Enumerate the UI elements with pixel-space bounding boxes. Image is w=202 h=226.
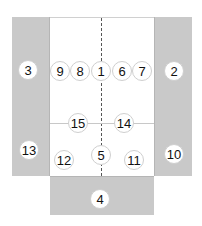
marker-2: 2 — [164, 61, 184, 81]
marker-12: 12 — [54, 150, 74, 170]
marker-14: 14 — [114, 113, 134, 133]
marker-5: 5 — [91, 145, 111, 165]
marker-10: 10 — [164, 144, 184, 164]
marker-15: 15 — [68, 113, 88, 133]
marker-13: 13 — [19, 140, 39, 160]
marker-11: 11 — [124, 150, 144, 170]
marker-4: 4 — [90, 189, 110, 209]
marker-7: 7 — [132, 61, 152, 81]
marker-1: 1 — [91, 61, 111, 81]
marker-9: 9 — [50, 61, 70, 81]
horizontal-divider-line — [50, 123, 154, 124]
marker-6: 6 — [112, 61, 132, 81]
marker-3: 3 — [18, 60, 38, 80]
marker-8: 8 — [70, 61, 90, 81]
